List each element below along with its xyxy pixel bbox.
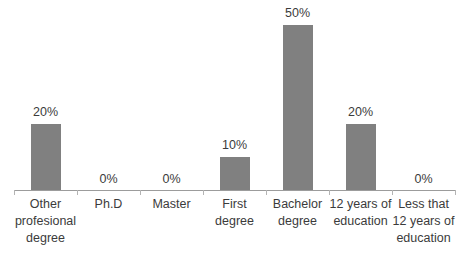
axis-tick — [455, 190, 456, 195]
bar[interactable] — [31, 124, 61, 190]
bar[interactable] — [283, 25, 313, 190]
category-label: First degree — [203, 196, 266, 230]
bar-value-label: 10% — [222, 139, 247, 152]
bar-slot: 50% — [266, 8, 329, 190]
category-label: Master — [140, 196, 203, 213]
category-label: Ph.D — [77, 196, 140, 213]
bar-chart: 20%0%0%10%50%20%0% Other profesional deg… — [0, 0, 473, 257]
bar-slot: 0% — [392, 8, 455, 190]
x-axis-line — [14, 190, 455, 191]
bar-value-label: 20% — [33, 106, 58, 119]
category-label: Other profesional degree — [14, 196, 77, 247]
axis-tick — [14, 190, 15, 195]
axis-tick — [329, 190, 330, 195]
bar-value-label: 0% — [162, 173, 180, 186]
bar-slot: 20% — [14, 8, 77, 190]
bar-slot: 0% — [77, 8, 140, 190]
plot-area: 20%0%0%10%50%20%0% — [14, 8, 455, 190]
bar-value-label: 50% — [285, 7, 310, 20]
category-label: Less that 12 years of education — [392, 196, 455, 247]
bar-value-label: 20% — [348, 106, 373, 119]
axis-tick — [140, 190, 141, 195]
axis-tick — [77, 190, 78, 195]
bar-value-label: 0% — [414, 173, 432, 186]
bar-value-label: 0% — [99, 173, 117, 186]
axis-tick — [392, 190, 393, 195]
category-label: 12 years of education — [329, 196, 392, 230]
axis-tick — [203, 190, 204, 195]
bar[interactable] — [220, 157, 250, 190]
bar[interactable] — [346, 124, 376, 190]
bar-slot: 0% — [140, 8, 203, 190]
bar-slot: 10% — [203, 8, 266, 190]
axis-tick — [266, 190, 267, 195]
bar-slot: 20% — [329, 8, 392, 190]
category-label: Bachelor degree — [266, 196, 329, 230]
x-axis-category-labels: Other profesional degreePh.DMasterFirst … — [14, 196, 455, 257]
